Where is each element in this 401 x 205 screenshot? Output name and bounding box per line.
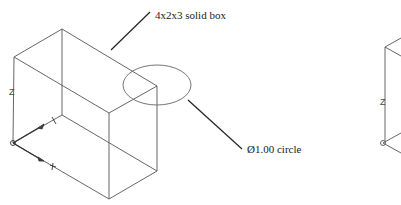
drawing-canvas: [0, 0, 401, 205]
z-axis-label-second-view: Z: [380, 98, 386, 107]
circle-leader-line: [188, 100, 242, 149]
box-leader-line: [111, 12, 150, 50]
z-axis-label: Z: [9, 88, 15, 97]
second-view-partial: [381, 38, 401, 153]
box-annotation: 4x2x3 solid box: [155, 10, 226, 21]
ucs-icon: [11, 117, 57, 170]
solid-box-wireframe: [13, 29, 157, 199]
circle-annotation: Ø1.00 circle: [247, 144, 301, 155]
